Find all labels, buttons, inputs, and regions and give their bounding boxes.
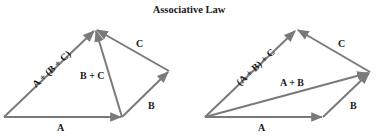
vector-diagrams: A B C B + C A + (B + C) A B C A + B (A +… <box>0 0 378 138</box>
label-c-right: C <box>338 38 345 49</box>
label-b-plus-c-left: B + C <box>80 70 105 81</box>
vector-b-left <box>122 72 168 117</box>
label-a-plus-b-right: A + B <box>280 77 304 88</box>
label-a-left: A <box>57 122 65 133</box>
label-a-plus-bc-left: A + (B + C) <box>30 48 74 90</box>
label-b-left: B <box>148 100 155 111</box>
vector-c-left <box>97 30 169 71</box>
right-diagram <box>205 30 370 117</box>
label-a-right: A <box>258 122 266 133</box>
vector-c-right <box>298 30 370 72</box>
label-ab-plus-c-right: (A + B) + C <box>234 46 278 88</box>
label-b-right: B <box>350 100 357 111</box>
label-c-left: C <box>136 38 143 49</box>
